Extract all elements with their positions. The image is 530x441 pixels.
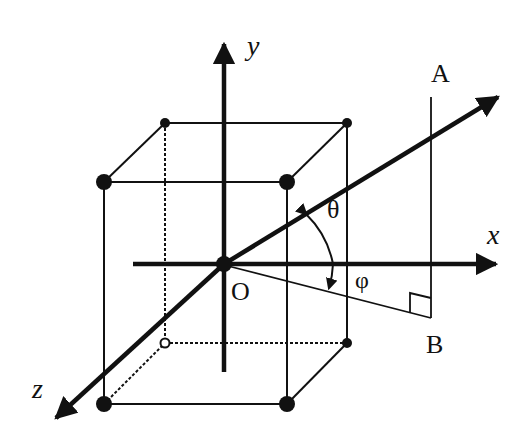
origin-point bbox=[216, 256, 232, 272]
vertex-front-bottom-right bbox=[279, 396, 295, 412]
vertex-front-top-left bbox=[96, 174, 112, 190]
angle-arcs bbox=[306, 214, 333, 288]
cube-edge-bottom-right bbox=[287, 343, 347, 404]
cube-edge-bottom-left-hidden bbox=[104, 343, 165, 404]
point-B-label: B bbox=[426, 330, 443, 359]
vertex-front-bottom-left bbox=[96, 396, 112, 412]
z-axis-label: z bbox=[31, 373, 43, 404]
coordinate-cube-diagram: y x z A B O θ φ bbox=[0, 0, 530, 441]
vertex-back-bottom-right bbox=[342, 338, 352, 348]
cube-edge-top-right bbox=[287, 123, 347, 182]
vertex-back-top-right bbox=[342, 118, 352, 128]
cube-edge-top-left bbox=[104, 123, 165, 182]
y-axis-label: y bbox=[244, 30, 260, 61]
theta-label: θ bbox=[327, 195, 339, 224]
line-O-to-B bbox=[228, 266, 431, 318]
labels: y x z A B O θ φ bbox=[31, 30, 500, 404]
point-A-label: A bbox=[431, 59, 450, 88]
origin-label: O bbox=[231, 277, 250, 306]
vertex-back-top-left bbox=[160, 118, 170, 128]
vertex-front-top-right bbox=[279, 174, 295, 190]
vertex-back-bottom-left bbox=[161, 339, 170, 348]
x-axis-label: x bbox=[486, 219, 500, 250]
z-axis bbox=[56, 264, 224, 418]
right-angle-marker bbox=[410, 293, 431, 313]
phi-label: φ bbox=[355, 267, 369, 293]
phi-arc bbox=[329, 264, 333, 288]
